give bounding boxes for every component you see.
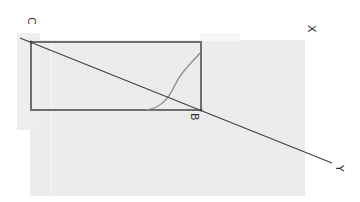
vertex-b	[200, 109, 203, 112]
left-light-panel	[17, 33, 40, 130]
label-b: B	[188, 113, 201, 121]
label-y: Y	[333, 164, 346, 172]
label-c: C	[25, 17, 38, 25]
vertex-c	[30, 41, 33, 44]
background-panel	[30, 40, 305, 196]
right-white-strip	[200, 33, 240, 41]
geometry-diagram: C X B Y	[0, 0, 360, 202]
label-x: X	[305, 25, 318, 33]
